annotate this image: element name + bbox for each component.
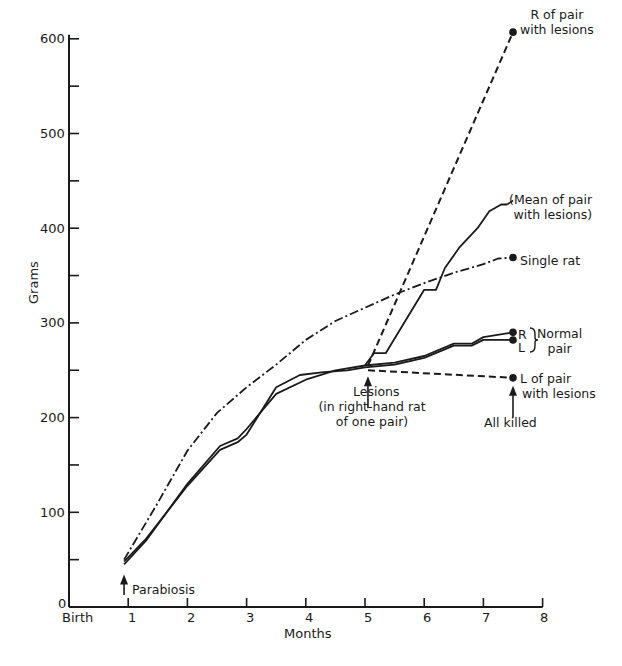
growth-chart: Grams Months 600 500 400 300 200 100 0 B… — [0, 0, 622, 666]
x-tick-label: 7 — [482, 610, 490, 625]
x-tick-label: 6 — [423, 610, 431, 625]
x-tick-label: 5 — [364, 610, 372, 625]
endpoint-marker — [509, 329, 517, 337]
plot-area — [0, 0, 622, 666]
x-tick-label: 1 — [128, 610, 136, 625]
all-killed-arrow-head — [509, 386, 517, 396]
y-tick-label: 400 — [40, 221, 65, 236]
y-tick-label: 100 — [40, 505, 65, 520]
annotation-single-rat: Single rat — [520, 253, 580, 268]
x-tick-label: 3 — [246, 610, 254, 625]
y-tick-label: 600 — [40, 31, 65, 46]
annotation-mean-of-pair-with-lesions: (Mean of pair with lesions) — [509, 192, 592, 222]
annotation-normal-pair: Normal pair — [537, 326, 582, 356]
series-r-of-pair-with-lesions — [368, 32, 513, 365]
x-axis-label: Months — [284, 626, 332, 641]
y-tick-label: 300 — [40, 315, 65, 330]
annotation-normal-pair-rl: R L — [518, 328, 527, 354]
y-tick-label: 0 — [58, 596, 66, 611]
annotation-lesions: Lesions (in right-hand rat of one pair) — [313, 384, 431, 429]
y-tick-label: 500 — [40, 126, 65, 141]
x-tick-label: 8 — [540, 610, 548, 625]
parabiosis-arrow-head — [120, 574, 128, 584]
endpoint-marker — [509, 254, 517, 262]
y-axis-label: Grams — [26, 261, 41, 304]
annotation-parabiosis: Parabiosis — [132, 582, 195, 597]
x-tick-label: 2 — [187, 610, 195, 625]
annotation-all-killed: All killed — [484, 415, 537, 430]
endpoint-marker — [509, 336, 517, 344]
x-tick-label: Birth — [62, 610, 93, 625]
y-tick-label: 200 — [40, 410, 65, 425]
x-tick-label: 4 — [305, 610, 313, 625]
endpoint-marker — [509, 374, 517, 382]
annotation-r-of-pair-with-lesions: R of pair with lesions — [520, 7, 594, 37]
endpoint-marker — [509, 28, 517, 36]
series-normal-pair-l — [124, 340, 513, 562]
series-l-of-pair-with-lesions — [368, 370, 513, 378]
annotation-l-of-pair-with-lesions: L of pair with lesions — [520, 371, 596, 401]
series-normal-pair-r — [124, 332, 513, 564]
series-mean-of-pair-with-lesions — [365, 205, 507, 366]
